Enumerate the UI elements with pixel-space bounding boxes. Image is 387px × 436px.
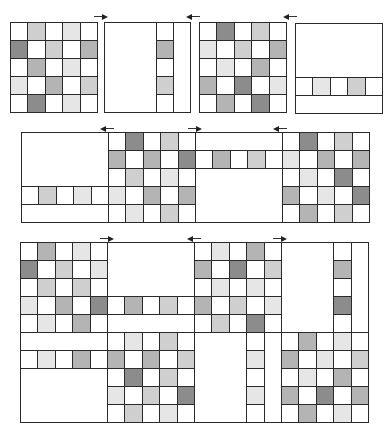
panel-a-full-grid-cell	[80, 22, 98, 41]
panel-a-full-grid-cell	[62, 40, 80, 59]
panel-a-full-grid-cell	[45, 58, 63, 77]
middle-frame	[21, 132, 370, 223]
panel-c-full-grid-cell	[234, 76, 252, 95]
shift-arrow-left-1-icon	[186, 14, 200, 20]
panel-c-full-grid-cell	[251, 40, 269, 59]
panel-d-horizontal-strip-cell	[312, 77, 330, 96]
panel-a-full-grid-cell	[27, 40, 45, 59]
panel-d-horizontal-strip-cell	[295, 77, 313, 96]
panel-a-full-grid-cell	[45, 22, 63, 41]
panel-c-full-grid-cell	[251, 22, 269, 41]
bottom-frame	[20, 242, 369, 423]
panel-b-vertical-strip-right	[173, 22, 191, 113]
panel-d-horizontal-strip-cell	[347, 77, 365, 96]
bot-shift-arrow-right-1-icon	[100, 236, 114, 242]
panel-a-full-grid-cell	[10, 40, 28, 59]
panel-c-full-grid-cell	[199, 22, 217, 41]
panel-a-full-grid-cell	[62, 22, 80, 41]
mid-shift-arrow-left-1-icon	[100, 126, 114, 132]
panel-d-horizontal-strip-cell	[330, 77, 348, 96]
panel-a-full-grid-cell	[45, 40, 63, 59]
panel-c-full-grid-cell	[234, 22, 252, 41]
panel-c-full-grid-cell	[216, 40, 234, 59]
panel-c-full-grid-cell	[251, 76, 269, 95]
panel-c-full-grid-cell	[199, 94, 217, 113]
panel-a-full-grid-cell	[45, 76, 63, 95]
panel-c-full-grid-cell	[216, 76, 234, 95]
panel-a-full-grid-cell	[62, 94, 80, 113]
panel-c-full-grid-cell	[234, 58, 252, 77]
panel-b-vertical-strip-cell	[156, 58, 174, 77]
panel-a-full-grid-cell	[80, 94, 98, 113]
panel-c-full-grid-cell	[216, 94, 234, 113]
panel-a-full-grid-cell	[10, 94, 28, 113]
panel-c-full-grid-cell	[199, 58, 217, 77]
panel-d-horizontal-strip-top	[295, 23, 383, 78]
bot-shift-arrow-left-1-icon	[187, 236, 201, 242]
panel-c-full-grid-cell	[251, 58, 269, 77]
panel-a-full-grid-cell	[80, 40, 98, 59]
panel-b-vertical-strip-cell	[156, 76, 174, 95]
shift-arrow-left-2-icon	[283, 14, 297, 20]
panel-b-vertical-strip-cell	[156, 40, 174, 59]
panel-a-full-grid-cell	[27, 22, 45, 41]
panel-a-full-grid-cell	[10, 58, 28, 77]
panel-c-full-grid-cell	[269, 22, 287, 41]
panel-a-full-grid-cell	[80, 76, 98, 95]
panel-a-full-grid-cell	[27, 58, 45, 77]
panel-c-full-grid-cell	[199, 40, 217, 59]
panel-a-full-grid-cell	[27, 76, 45, 95]
panel-c-full-grid-cell	[251, 94, 269, 113]
panel-a-full-grid-cell	[10, 22, 28, 41]
panel-b-vertical-strip-cell	[156, 94, 174, 113]
panel-c-full-grid-cell	[269, 94, 287, 113]
panel-b-vertical-strip-left	[104, 22, 157, 113]
panel-c-full-grid-cell	[234, 40, 252, 59]
panel-c-full-grid-cell	[269, 40, 287, 59]
panel-a-full-grid-cell	[27, 94, 45, 113]
panel-a-full-grid-cell	[80, 58, 98, 77]
panel-a-full-grid-cell	[62, 58, 80, 77]
panel-d-horizontal-strip-bottom	[295, 95, 383, 114]
panel-c-full-grid-cell	[269, 76, 287, 95]
panel-a-full-grid-cell	[45, 94, 63, 113]
panel-a-full-grid-cell	[10, 76, 28, 95]
mid-shift-arrow-right-1-icon	[188, 126, 202, 132]
mid-shift-arrow-left-2-icon	[273, 126, 287, 132]
shift-arrow-right-1-icon	[94, 14, 108, 20]
panel-b-vertical-strip-cell	[156, 22, 174, 41]
bot-shift-arrow-right-2-icon	[273, 236, 287, 242]
panel-c-full-grid-cell	[269, 58, 287, 77]
panel-c-full-grid-cell	[234, 94, 252, 113]
panel-c-full-grid-cell	[216, 58, 234, 77]
panel-c-full-grid-cell	[216, 22, 234, 41]
panel-c-full-grid-cell	[199, 76, 217, 95]
panel-d-horizontal-strip-cell	[365, 77, 383, 96]
panel-a-full-grid-cell	[62, 76, 80, 95]
